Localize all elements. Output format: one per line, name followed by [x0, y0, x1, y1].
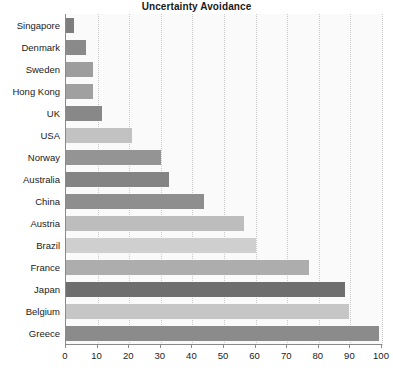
x-tick-label-90: 90: [334, 350, 364, 361]
bar-sweden: [66, 62, 93, 77]
tick-mark-80: [318, 345, 319, 348]
bar-row: [66, 301, 382, 323]
x-tick-label-60: 60: [240, 350, 270, 361]
bar-norway: [66, 150, 161, 165]
tick-mark-50: [223, 345, 224, 348]
bar-row: [66, 14, 382, 36]
y-axis-label-france: France: [0, 262, 60, 273]
y-axis-label-china: China: [0, 196, 60, 207]
x-tick-label-20: 20: [113, 350, 143, 361]
y-axis-label-greece: Greece: [0, 328, 60, 339]
bar-row: [66, 36, 382, 58]
x-tick-label-80: 80: [303, 350, 333, 361]
bar-hong-kong: [66, 84, 93, 99]
bar-row: [66, 235, 382, 257]
x-tick-label-10: 10: [82, 350, 112, 361]
gridline-100: [382, 14, 383, 345]
bar-row: [66, 124, 382, 146]
x-tick-label-50: 50: [208, 350, 238, 361]
bar-row: [66, 323, 382, 345]
tick-mark-70: [286, 345, 287, 348]
bar-japan: [66, 282, 345, 297]
tick-mark-30: [160, 345, 161, 348]
y-axis-label-japan: Japan: [0, 284, 60, 295]
bar-france: [66, 260, 309, 275]
x-tick-label-0: 0: [50, 350, 80, 361]
bar-belgium: [66, 304, 349, 319]
bar-row: [66, 213, 382, 235]
y-axis-label-sweden: Sweden: [0, 64, 60, 75]
bar-singapore: [66, 18, 74, 33]
tick-mark-0: [65, 345, 66, 348]
x-tick-label-40: 40: [176, 350, 206, 361]
tick-mark-100: [381, 345, 382, 348]
y-axis-label-norway: Norway: [0, 152, 60, 163]
bar-greece: [66, 326, 379, 341]
tick-mark-90: [349, 345, 350, 348]
uncertainty-avoidance-bar-chart: Uncertainty Avoidance 010203040506070809…: [0, 0, 393, 378]
y-axis-label-denmark: Denmark: [0, 42, 60, 53]
bar-australia: [66, 172, 169, 187]
y-axis-label-singapore: Singapore: [0, 20, 60, 31]
y-axis-label-hong-kong: Hong Kong: [0, 86, 60, 97]
plot-area: [65, 14, 382, 345]
bar-row: [66, 80, 382, 102]
bar-usa: [66, 128, 132, 143]
y-axis-label-belgium: Belgium: [0, 306, 60, 317]
y-axis-label-australia: Australia: [0, 174, 60, 185]
y-axis-label-brazil: Brazil: [0, 240, 60, 251]
bar-row: [66, 257, 382, 279]
tick-mark-20: [128, 345, 129, 348]
tick-mark-40: [191, 345, 192, 348]
bar-row: [66, 102, 382, 124]
y-axis-label-uk: UK: [0, 108, 60, 119]
chart-title: Uncertainty Avoidance: [0, 1, 393, 12]
bar-row: [66, 279, 382, 301]
x-tick-label-100: 100: [366, 350, 393, 361]
y-axis-label-austria: Austria: [0, 218, 60, 229]
y-axis-label-usa: USA: [0, 130, 60, 141]
bar-austria: [66, 216, 244, 231]
bar-row: [66, 58, 382, 80]
bar-row: [66, 168, 382, 190]
tick-mark-60: [255, 345, 256, 348]
x-tick-label-70: 70: [271, 350, 301, 361]
bar-brazil: [66, 238, 256, 253]
tick-mark-10: [97, 345, 98, 348]
bar-row: [66, 146, 382, 168]
bar-china: [66, 194, 204, 209]
bar-uk: [66, 106, 102, 121]
x-tick-label-30: 30: [145, 350, 175, 361]
bar-row: [66, 191, 382, 213]
bar-denmark: [66, 40, 86, 55]
